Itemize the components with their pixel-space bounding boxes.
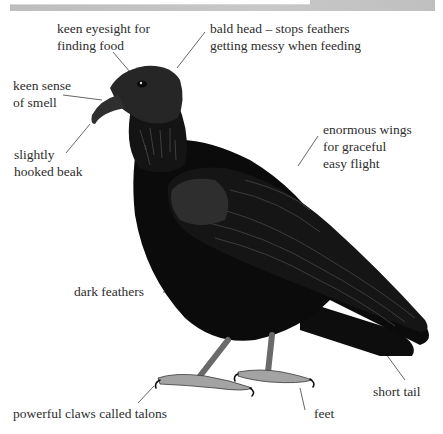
eye-highlight bbox=[140, 82, 142, 84]
leader-line-eyesight bbox=[113, 52, 130, 72]
label-bald-head-line1: bald head – stops feathers bbox=[210, 20, 361, 37]
label-feet-line1: feet bbox=[314, 405, 334, 422]
eye bbox=[137, 81, 147, 88]
leader-line-bald-head bbox=[177, 32, 205, 68]
label-talons-line1: powerful claws called talons bbox=[13, 405, 167, 422]
head-shape bbox=[110, 66, 183, 124]
label-eyesight: keen eyesight for finding food bbox=[57, 20, 150, 54]
label-feathers-line1: dark feathers bbox=[74, 283, 144, 300]
label-wings-line1: enormous wings bbox=[323, 121, 412, 138]
label-bald-head-line2: getting messy when feeding bbox=[210, 37, 361, 54]
label-smell: keen sense of smell bbox=[13, 77, 71, 111]
label-beak-line1: slightly bbox=[14, 146, 83, 163]
label-beak: slightly hooked beak bbox=[14, 146, 83, 180]
label-feet: feet bbox=[314, 405, 334, 422]
label-smell-line1: keen sense bbox=[13, 77, 71, 94]
label-eyesight-line2: finding food bbox=[57, 37, 150, 54]
label-wings-line3: easy flight bbox=[323, 155, 412, 172]
leader-line-wings bbox=[298, 136, 318, 166]
label-talons: powerful claws called talons bbox=[13, 405, 167, 422]
label-bald-head: bald head – stops feathers getting messy… bbox=[210, 20, 361, 54]
label-smell-line2: of smell bbox=[13, 94, 71, 111]
label-wings-line2: for graceful bbox=[323, 138, 412, 155]
label-wings: enormous wings for graceful easy flight bbox=[323, 121, 412, 172]
leader-line-talons bbox=[138, 386, 154, 403]
shoulder-feathers bbox=[171, 179, 228, 225]
label-eyesight-line1: keen eyesight for bbox=[57, 20, 150, 37]
label-beak-line2: hooked beak bbox=[14, 163, 83, 180]
label-feathers: dark feathers bbox=[74, 283, 144, 300]
vulture-illustration bbox=[0, 0, 443, 434]
label-tail-line1: short tail bbox=[373, 383, 421, 400]
label-tail: short tail bbox=[373, 383, 421, 400]
leader-line-feet bbox=[300, 388, 305, 410]
leader-line-tail bbox=[386, 354, 405, 380]
